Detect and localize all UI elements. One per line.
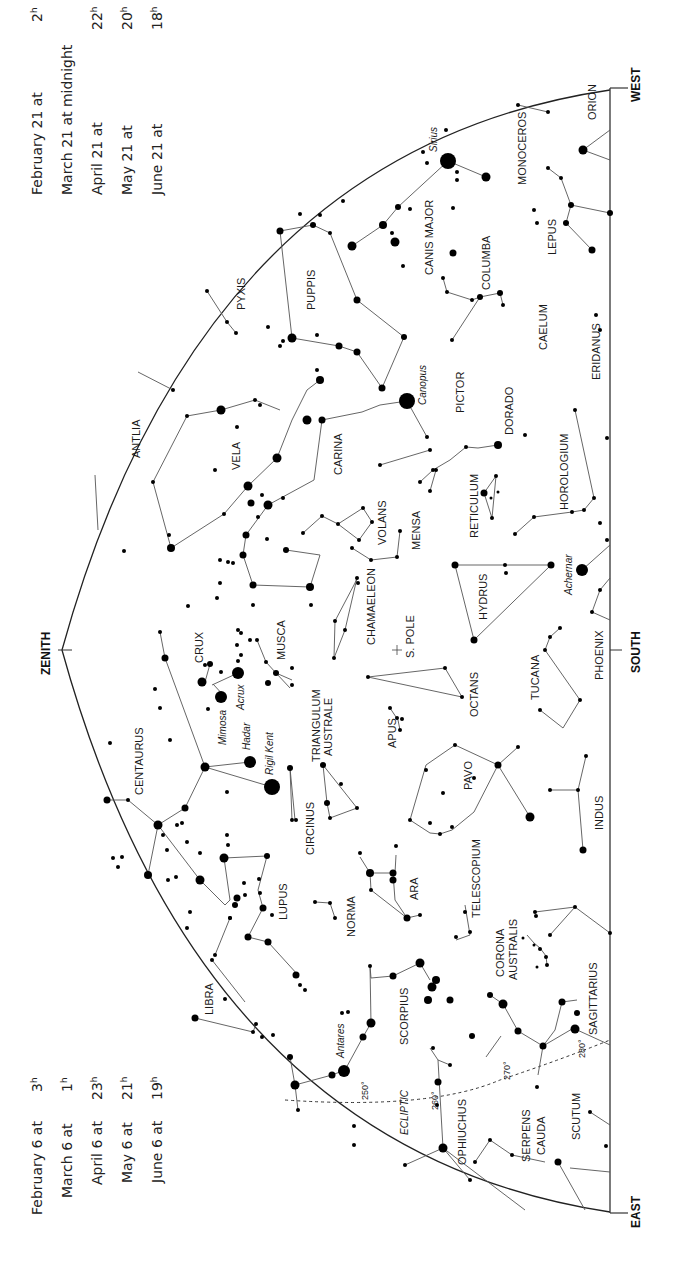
south-pole-marker (392, 645, 402, 655)
label-libra: LIBRA (203, 983, 215, 1015)
label-antares: Antares (335, 1024, 346, 1059)
svg-text:June 6 at: June 6 at (149, 1120, 165, 1184)
label-sirius: Sirius (428, 127, 439, 152)
star-antares (338, 1065, 350, 1077)
ecliptic-label: ECLIPTIC (399, 1089, 410, 1135)
star-achernar (576, 564, 588, 576)
stars (104, 103, 614, 1182)
label-centaurus: CENTAURUS (133, 727, 145, 795)
svg-text:280°: 280° (577, 1039, 587, 1058)
label-indus: INDUS (593, 796, 605, 830)
label-achernar: Achernar (563, 554, 574, 596)
label-canis-major: CANIS MAJOR (423, 200, 435, 275)
label-mimosa: Mimosa (217, 710, 228, 745)
label-sagittarius: SAGITTARIUS (587, 962, 599, 1035)
svg-text:18h: 18h (149, 6, 165, 30)
west-label: WEST (629, 67, 643, 102)
label-tucana: TUCANA (529, 654, 541, 700)
label-australe: AUSTRALE (322, 698, 334, 756)
label-triangulum: TRIANGULUM (310, 689, 322, 762)
label-puppis: PUPPIS (305, 270, 317, 310)
label-mensa: MENSA (410, 510, 422, 550)
svg-text:March 21 at midnight: March 21 at midnight (59, 44, 75, 195)
star-mimosa (215, 691, 227, 703)
svg-text:March 6 at: March 6 at (59, 1123, 75, 1198)
svg-text:April 21 at: April 21 at (89, 122, 105, 195)
label-caelum: CAELUM (537, 304, 549, 350)
label-pyxis: PYXIS (235, 278, 247, 310)
svg-text:22h: 22h (89, 6, 105, 30)
label-octans: OCTANS (468, 672, 480, 717)
svg-text:19h: 19h (149, 1076, 165, 1100)
svg-text:May 6 at: May 6 at (119, 1122, 135, 1183)
star-rigil-kent (264, 779, 280, 795)
svg-text:2h: 2h (29, 7, 45, 22)
svg-text:February 6 at: February 6 at (29, 1121, 45, 1215)
svg-text:February 21 at: February 21 at (29, 92, 45, 195)
label-antlia: ANTLIA (130, 419, 142, 458)
label-cauda: CAUDA (535, 1116, 547, 1155)
label-pavo: PAVO (462, 761, 474, 790)
star-hadar (244, 756, 256, 768)
label-musca: MUSCA (275, 620, 287, 660)
label-hydrus: HYDRUS (477, 574, 489, 620)
label-serpens: SERPENS (520, 1109, 532, 1162)
svg-text:1h: 1h (59, 1077, 75, 1092)
time-table-top: February 21 at 2h March 21 at midnight A… (29, 6, 165, 196)
constellation-labels: ORION MONOCEROS LEPUS CANIS MAJOR COLUMB… (130, 84, 605, 1165)
label-hadar: Hadar (241, 722, 252, 750)
label-scutum: SCUTUM (570, 1093, 582, 1140)
label-australis: AUSTRALIS (507, 919, 519, 980)
label-corona: CORONA (494, 928, 506, 977)
label-ara: ARA (408, 877, 420, 900)
star-acrux (232, 667, 244, 679)
label-circinus: CIRCINUS (304, 802, 316, 855)
svg-text:May 21 at: May 21 at (119, 125, 135, 195)
label-reticulum: RETICULUM (468, 474, 480, 538)
label-carina: CARINA (332, 433, 344, 475)
star-sirius (440, 153, 456, 169)
ecliptic-line (285, 1040, 610, 1103)
label-chamaeleon: CHAMAELEON (365, 568, 377, 645)
south-pole-label: S. POLE (404, 615, 416, 658)
label-scorpius: SCORPIUS (398, 988, 410, 1045)
label-dorado: DORADO (503, 386, 515, 435)
label-pictor: PICTOR (454, 372, 466, 413)
svg-text:20h: 20h (119, 6, 135, 30)
star-canopus (399, 393, 415, 409)
label-volans: VOLANS (376, 500, 388, 545)
label-crux: CRUX (193, 631, 205, 663)
svg-text:June 21 at: June 21 at (149, 123, 165, 196)
svg-text:21h: 21h (119, 1076, 135, 1100)
label-canopus: Canopus (417, 365, 428, 405)
label-eridanus: ERIDANUS (590, 323, 602, 380)
label-lepus: LEPUS (546, 219, 558, 255)
svg-text:3h: 3h (29, 1077, 45, 1092)
label-acrux: Acrux (235, 683, 246, 711)
label-columba: COLUMBA (480, 235, 492, 290)
label-norma: NORMA (345, 895, 357, 937)
label-telescopium: TELESCOPIUM (470, 839, 482, 918)
label-ophiuchus: OPHIUCHUS (456, 1099, 468, 1165)
label-orion: ORION (586, 84, 598, 120)
svg-text:April 6 at: April 6 at (89, 1121, 105, 1185)
label-apus: APUS (386, 718, 398, 748)
svg-text:250°: 250° (360, 1081, 370, 1100)
time-table-bottom: February 6 at 3h March 6 at 1h April 6 a… (29, 1076, 165, 1215)
svg-text:270°: 270° (502, 1061, 512, 1080)
star-chart: February 21 at 2h March 21 at midnight A… (0, 0, 673, 1263)
label-vela: VELA (230, 441, 242, 470)
zenith-label: ZENITH (39, 632, 53, 675)
svg-text:260°: 260° (430, 1091, 440, 1110)
label-phoenix: PHOENIX (593, 630, 605, 680)
svg-text:23h: 23h (89, 1076, 105, 1100)
label-rigil-kent: Rigil Kent (264, 731, 275, 775)
star-labels: Sirius Canopus Achernar Acrux Mimosa Had… (217, 127, 574, 1059)
south-label: SOUTH (629, 631, 643, 673)
east-label: EAST (629, 1195, 643, 1228)
label-horologium: HOROLOGIUM (558, 434, 570, 510)
label-monoceros: MONOCEROS (516, 112, 528, 185)
label-lupus: LUPUS (277, 883, 289, 920)
